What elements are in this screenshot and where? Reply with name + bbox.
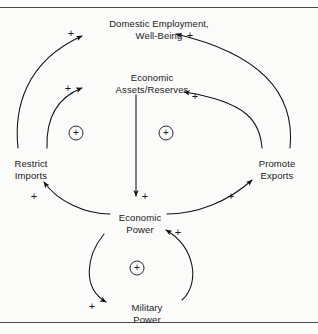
link-label-power-to-exports: +	[228, 191, 234, 202]
node-restrict-imports-line1: Restrict	[15, 158, 48, 170]
node-economic-power-line2: Power	[119, 224, 162, 236]
node-restrict-imports-line2: Imports	[15, 170, 48, 182]
link-military-power-to-economic-power	[166, 230, 193, 300]
link-label-military-to-power: +	[175, 227, 181, 238]
node-economic-assets-line2: Assets/Reserves	[116, 84, 189, 96]
node-economic-power-line1: Economic	[119, 212, 162, 224]
loop-marker-bottom-reinforcing: +	[130, 261, 145, 276]
link-label-power-to-military: +	[89, 301, 95, 312]
node-domestic-employment[interactable]: Domestic Employment, Well-Being	[109, 18, 209, 41]
node-promote-exports-line1: Promote	[259, 158, 296, 170]
node-promote-exports-line2: Exports	[259, 170, 296, 182]
loop-marker-right-symbol: +	[160, 126, 173, 137]
figure-canvas: Domestic Employment, Well-Being Economic…	[0, 0, 318, 334]
link-label-assets-to-power: +	[142, 191, 148, 202]
node-promote-exports[interactable]: Promote Exports	[259, 158, 296, 181]
link-label-exports-to-assets: +	[192, 91, 198, 102]
loop-marker-right-reinforcing: +	[159, 126, 174, 141]
node-economic-assets[interactable]: Economic Assets/Reserves	[116, 72, 189, 95]
node-military-power-line2: Power	[132, 314, 163, 326]
node-economic-power[interactable]: Economic Power	[119, 212, 162, 235]
link-economic-power-to-military-power	[89, 234, 106, 302]
link-label-imports-to-assets: +	[65, 83, 71, 94]
loop-marker-left-symbol: +	[70, 126, 83, 137]
link-label-power-to-imports: +	[31, 191, 37, 202]
node-domestic-employment-line1: Domestic Employment,	[109, 18, 209, 30]
link-label-imports-to-employment: +	[68, 28, 74, 39]
node-domestic-employment-line2: Well-Being	[109, 30, 209, 42]
node-restrict-imports[interactable]: Restrict Imports	[15, 158, 48, 181]
node-military-power-line1: Military	[132, 302, 163, 314]
link-economic-power-to-restrict-imports	[44, 182, 110, 214]
link-label-exports-to-employment: +	[187, 30, 193, 41]
node-military-power[interactable]: Military Power	[132, 302, 163, 325]
loop-marker-left-reinforcing: +	[69, 126, 84, 141]
node-economic-assets-line1: Economic	[116, 72, 189, 84]
loop-marker-bottom-symbol: +	[131, 261, 144, 272]
link-economic-power-to-promote-exports	[167, 180, 252, 214]
